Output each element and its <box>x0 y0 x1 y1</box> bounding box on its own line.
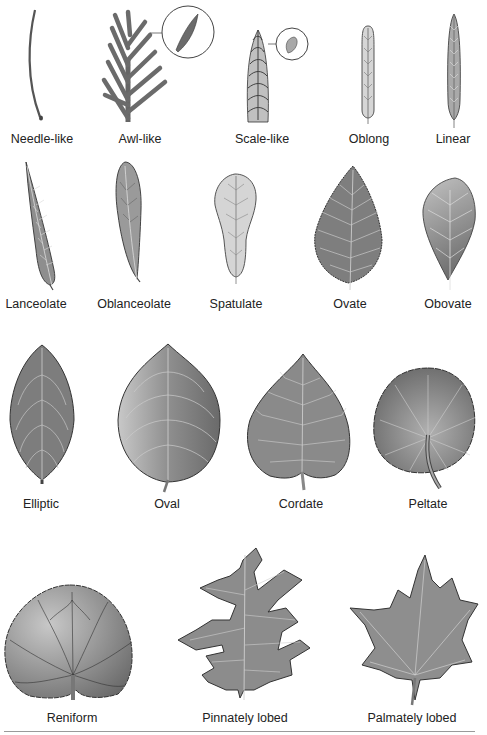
leaf-needle-like <box>30 10 43 121</box>
leaf-label-awl-like: Awl-like <box>119 132 162 146</box>
leaf-oblanceolate <box>116 162 141 282</box>
leaf-obovate <box>423 178 475 290</box>
leaf-oval <box>118 344 220 492</box>
leaf-linear <box>448 14 461 128</box>
leaf-lanceolate <box>26 162 55 290</box>
bottom-rule <box>4 731 475 732</box>
leaf-shapes-drawing <box>0 0 487 735</box>
leaf-label-needle-like: Needle-like <box>11 132 74 146</box>
leaf-shapes-figure: Needle-like Awl-like Scale-like Oblong L… <box>0 0 487 735</box>
leaf-label-oval: Oval <box>154 497 180 511</box>
leaf-label-spatulate: Spatulate <box>210 297 263 311</box>
leaf-label-lanceolate: Lanceolate <box>5 297 66 311</box>
leaf-spatulate <box>215 174 256 284</box>
leaf-label-linear: Linear <box>436 132 471 146</box>
leaf-elliptic <box>10 345 74 484</box>
leaf-oblong <box>362 26 374 124</box>
leaf-label-peltate: Peltate <box>409 497 448 511</box>
leaf-label-obovate: Obovate <box>424 297 471 311</box>
leaf-scale-like <box>247 28 308 122</box>
leaf-palmately-lobed <box>350 555 478 705</box>
leaf-label-scale-like: Scale-like <box>235 132 289 146</box>
leaf-label-oblong: Oblong <box>349 132 389 146</box>
leaf-peltate <box>374 368 475 488</box>
leaf-label-reniform: Reniform <box>47 711 98 725</box>
leaf-reniform <box>5 585 132 700</box>
leaf-label-palmately-lobed: Palmately lobed <box>368 711 457 725</box>
leaf-label-elliptic: Elliptic <box>23 497 59 511</box>
leaf-label-oblanceolate: Oblanceolate <box>97 297 171 311</box>
leaf-pinnately-lobed <box>178 548 310 700</box>
leaf-label-ovate: Ovate <box>333 297 366 311</box>
leaf-cordate <box>247 354 349 490</box>
leaf-ovate <box>315 166 382 290</box>
leaf-label-cordate: Cordate <box>279 497 323 511</box>
leaf-awl-like <box>104 6 214 122</box>
leaf-label-pinnately-lobed: Pinnately lobed <box>202 711 287 725</box>
